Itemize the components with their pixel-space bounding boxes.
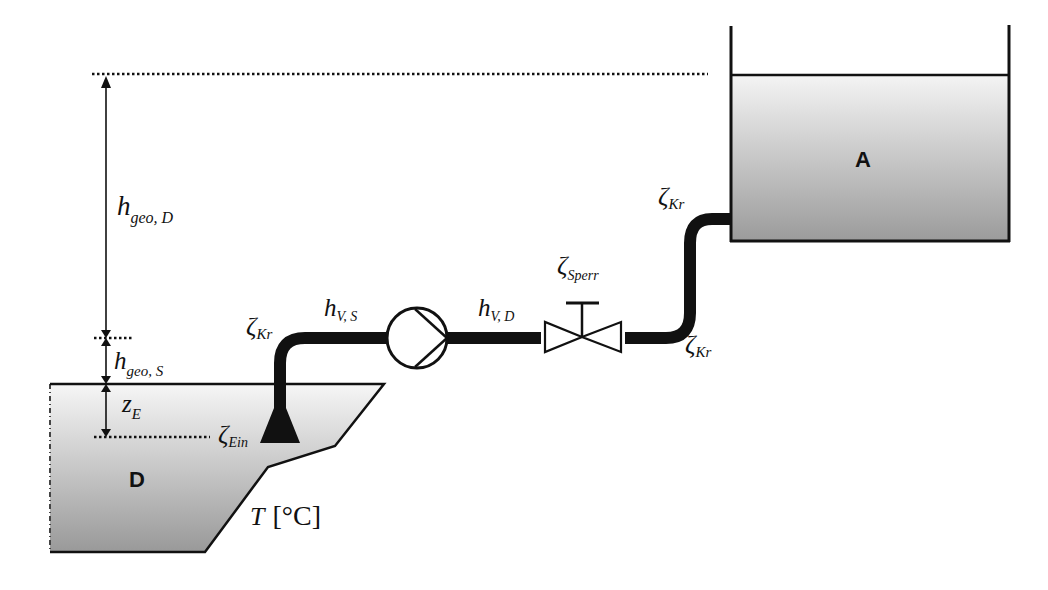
h-geo-s-label: hgeo, S (114, 347, 164, 379)
discharge-pipe-segment-2 (625, 219, 732, 338)
zeta-kr-lower-label: ζKr (685, 330, 712, 360)
h-v-d-label: hV, D (478, 294, 514, 324)
tank-d-label: D (129, 467, 145, 492)
tank-a: A (730, 25, 1010, 242)
zeta-kr-suction-label: ζKr (246, 312, 273, 342)
arrow-up-icon (101, 76, 111, 88)
temperature-label: T[°C] (250, 500, 321, 531)
pump-casing (387, 308, 447, 368)
zeta-sperr-label: ζSperr (557, 251, 599, 283)
dimension-h-geo-d (101, 76, 111, 338)
schematic-svg: A D (0, 0, 1048, 590)
shutoff-valve-icon (545, 303, 621, 352)
tank-d: D (50, 384, 384, 552)
dimension-h-geo-s (101, 338, 111, 384)
h-geo-d-label: hgeo, D (117, 191, 174, 227)
h-v-s-label: hV, S (324, 294, 357, 324)
tank-d-fluid (50, 384, 384, 552)
zeta-kr-upper-label: ζKr (658, 182, 685, 212)
valve-right-triangle (582, 322, 621, 352)
tank-a-label: A (855, 147, 871, 172)
diagram-canvas: A D (0, 0, 1048, 590)
pump-icon (387, 308, 447, 368)
valve-left-triangle (545, 322, 582, 352)
